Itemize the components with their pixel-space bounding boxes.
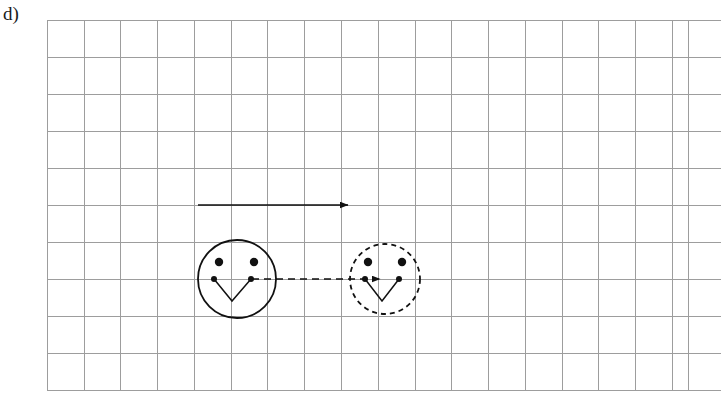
left-eye-dot xyxy=(215,258,223,266)
right-eye-dot xyxy=(398,258,406,266)
mouth-v-shape xyxy=(365,279,399,301)
mouth-v-shape xyxy=(214,279,251,301)
mouth-right-dot xyxy=(396,276,402,282)
physics-figure-drawing xyxy=(0,0,721,401)
figure-canvas: d) xyxy=(0,0,721,401)
left-eye-dot xyxy=(364,258,372,266)
grid-layer xyxy=(47,20,721,390)
mouth-left-dot xyxy=(211,276,217,282)
right-eye-dot xyxy=(250,258,258,266)
